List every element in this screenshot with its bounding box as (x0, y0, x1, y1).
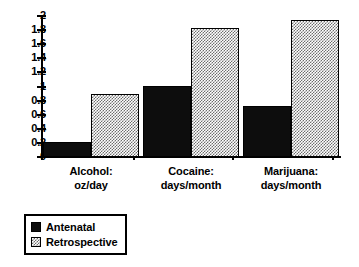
category-label-line: days/month (136, 178, 246, 192)
legend-item-antenatal: Antenatal (31, 219, 117, 234)
category-label: Cocaine:days/month (136, 164, 246, 192)
legend-label-antenatal: Antenatal (46, 221, 95, 233)
category-label-line: Alcohol: (36, 164, 146, 178)
bar-antenatal-cocaine (143, 86, 191, 157)
bar-chart: 21.81.61.41.210.80.60.40.20 Alcohol:oz/d… (0, 0, 359, 267)
bar-retrospective-alcohol (91, 94, 139, 157)
plot-area (41, 16, 340, 158)
bar-antenatal-marijuana (243, 106, 291, 157)
category-label: Alcohol:oz/day (36, 164, 146, 192)
chart-legend: Antenatal Retrospective (24, 214, 127, 255)
category-label-line: days/month (236, 178, 346, 192)
legend-swatch-antenatal (31, 222, 41, 232)
bar-antenatal-alcohol (43, 142, 91, 157)
legend-swatch-retrospective (31, 237, 41, 247)
category-label-line: Cocaine: (136, 164, 246, 178)
bar-retrospective-cocaine (191, 28, 239, 157)
legend-item-retrospective: Retrospective (31, 234, 117, 249)
category-label: Marijuana:days/month (236, 164, 346, 192)
category-label-line: oz/day (36, 178, 146, 192)
legend-label-retrospective: Retrospective (46, 236, 117, 248)
category-label-line: Marijuana: (236, 164, 346, 178)
bar-retrospective-marijuana (291, 20, 339, 157)
